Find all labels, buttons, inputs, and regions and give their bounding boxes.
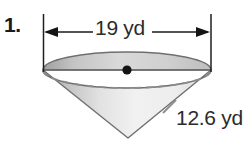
problem-number: 1.: [4, 14, 21, 35]
diameter-label: 19 yd: [93, 17, 147, 38]
slant-height-label: 12.6 yd: [176, 107, 243, 128]
center-dot: [122, 65, 131, 74]
arrowhead-right-icon: [196, 27, 210, 37]
arrowhead-left-icon: [44, 27, 58, 37]
cone-figure: 1. 19 yd 12.6 yd: [0, 0, 245, 141]
